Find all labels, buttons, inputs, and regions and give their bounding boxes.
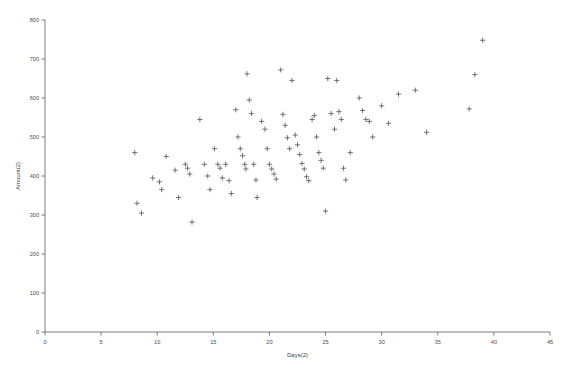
data-point xyxy=(318,158,323,163)
y-axis: 0100200300400500600700800 xyxy=(30,17,45,335)
data-point xyxy=(295,142,300,147)
y-tick-label: 200 xyxy=(30,251,39,257)
data-point xyxy=(413,88,418,93)
data-point xyxy=(134,201,139,206)
data-point xyxy=(205,173,210,178)
data-point xyxy=(271,171,276,176)
data-point xyxy=(238,146,243,151)
data-point xyxy=(249,111,254,116)
data-point xyxy=(139,210,144,215)
data-point xyxy=(247,97,252,102)
data-point xyxy=(267,162,272,167)
data-point xyxy=(265,146,270,151)
data-point xyxy=(348,150,353,155)
data-point xyxy=(332,127,337,132)
x-tick-label: 35 xyxy=(435,339,441,345)
data-point xyxy=(233,107,238,112)
data-point xyxy=(207,187,212,192)
y-axis-title: Amount(2) xyxy=(15,162,21,190)
data-point xyxy=(289,78,294,83)
data-point xyxy=(157,179,162,184)
data-point xyxy=(243,166,248,171)
x-tick-label: 0 xyxy=(43,339,46,345)
data-point xyxy=(253,177,258,182)
data-point xyxy=(220,175,225,180)
data-point xyxy=(278,67,283,72)
data-point xyxy=(269,166,274,171)
x-tick-label: 5 xyxy=(100,339,103,345)
data-point xyxy=(285,135,290,140)
data-point xyxy=(386,121,391,126)
data-point xyxy=(302,166,307,171)
data-point xyxy=(314,134,319,139)
x-axis-title: Days(2) xyxy=(287,352,308,358)
data-point xyxy=(242,162,247,167)
data-point xyxy=(424,130,429,135)
y-tick-label: 500 xyxy=(30,134,39,140)
data-point xyxy=(299,161,304,166)
data-point xyxy=(197,117,202,122)
data-point xyxy=(283,123,288,128)
data-point xyxy=(370,134,375,139)
data-point xyxy=(240,153,245,158)
data-point xyxy=(396,92,401,97)
y-tick-label: 600 xyxy=(30,95,39,101)
data-point xyxy=(316,150,321,155)
y-tick-label: 0 xyxy=(36,329,39,335)
y-tick-label: 300 xyxy=(30,212,39,218)
data-points-layer xyxy=(132,38,485,225)
data-point xyxy=(255,195,260,200)
data-point xyxy=(357,95,362,100)
data-point xyxy=(159,187,164,192)
data-point xyxy=(480,38,485,43)
plot-canvas: 0100200300400500600700800 05101520253035… xyxy=(0,0,569,379)
x-tick-label: 25 xyxy=(322,339,328,345)
data-point xyxy=(164,154,169,159)
data-point xyxy=(360,108,365,113)
data-point xyxy=(329,111,334,116)
data-point xyxy=(280,112,285,117)
data-point xyxy=(323,209,328,214)
data-point xyxy=(343,177,348,182)
data-point xyxy=(336,109,341,114)
data-point xyxy=(293,132,298,137)
x-tick-label: 10 xyxy=(154,339,160,345)
data-point xyxy=(251,162,256,167)
data-point xyxy=(244,71,249,76)
y-tick-label: 100 xyxy=(30,290,39,296)
data-point xyxy=(187,171,192,176)
data-point xyxy=(229,191,234,196)
data-point xyxy=(379,103,384,108)
x-axis: 051015202530354045 xyxy=(43,332,553,345)
scatter-plot-figure: 0100200300400500600700800 05101520253035… xyxy=(0,0,569,379)
data-point xyxy=(150,175,155,180)
x-tick-label: 30 xyxy=(379,339,385,345)
data-point xyxy=(325,76,330,81)
data-point xyxy=(339,117,344,122)
y-tick-label: 400 xyxy=(30,173,39,179)
data-point xyxy=(176,195,181,200)
data-point xyxy=(274,177,279,182)
x-tick-label: 20 xyxy=(266,339,272,345)
data-point xyxy=(202,162,207,167)
data-point xyxy=(259,119,264,124)
data-point xyxy=(297,152,302,157)
data-point xyxy=(173,168,178,173)
data-point xyxy=(235,134,240,139)
data-point xyxy=(334,78,339,83)
y-tick-label: 800 xyxy=(30,17,39,23)
data-point xyxy=(223,162,228,167)
data-point xyxy=(212,146,217,151)
data-point xyxy=(132,150,137,155)
data-point xyxy=(467,106,472,111)
data-point xyxy=(189,219,194,224)
x-tick-label: 15 xyxy=(210,339,216,345)
data-point xyxy=(321,166,326,171)
data-point xyxy=(341,166,346,171)
data-point xyxy=(226,178,231,183)
x-tick-label: 40 xyxy=(491,339,497,345)
x-tick-label: 45 xyxy=(547,339,553,345)
data-point xyxy=(287,146,292,151)
data-point xyxy=(472,72,477,77)
y-tick-label: 700 xyxy=(30,56,39,62)
